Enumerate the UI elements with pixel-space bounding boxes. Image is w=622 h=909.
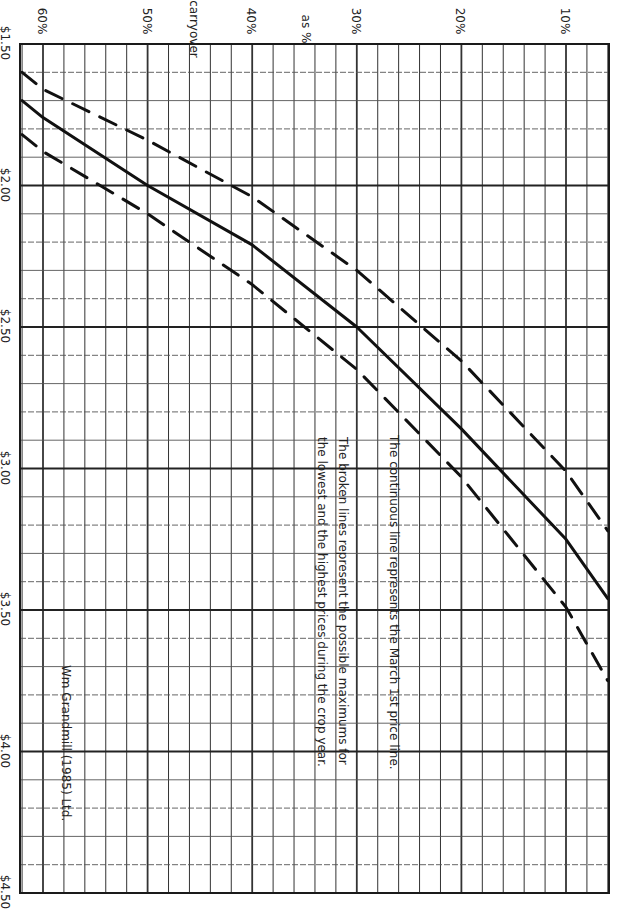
x-tick-label: 50%: [140, 8, 154, 35]
y-tick-label: $2.50: [0, 309, 12, 343]
note-continuous-line: The continuous line represents the March…: [387, 435, 401, 835]
credit-text: Wm Grandmill (1985) Ltd.: [59, 665, 73, 845]
x-axis-label-as-percent: as %: [299, 15, 313, 44]
x-tick-label: 30%: [349, 8, 363, 35]
y-tick-label: $4.50: [0, 875, 12, 909]
y-tick-label: $4.00: [0, 733, 12, 767]
y-tick-label: $2.00: [0, 167, 12, 201]
x-tick-label: 10%: [558, 8, 572, 35]
x-tick-label: 40%: [245, 8, 259, 35]
x-axis-label-carryover: carryover: [187, 0, 201, 57]
y-tick-label: $3.00: [0, 450, 12, 484]
y-tick-label: $3.50: [0, 592, 12, 626]
note-broken-lines-1: The broken lines represent the possible …: [336, 437, 350, 837]
y-tick-label: $1.50: [0, 26, 12, 60]
x-tick-label: 20%: [454, 8, 468, 35]
note-broken-lines-2: the lowest and the highest prices during…: [315, 437, 329, 837]
x-tick-label: 60%: [35, 8, 49, 35]
